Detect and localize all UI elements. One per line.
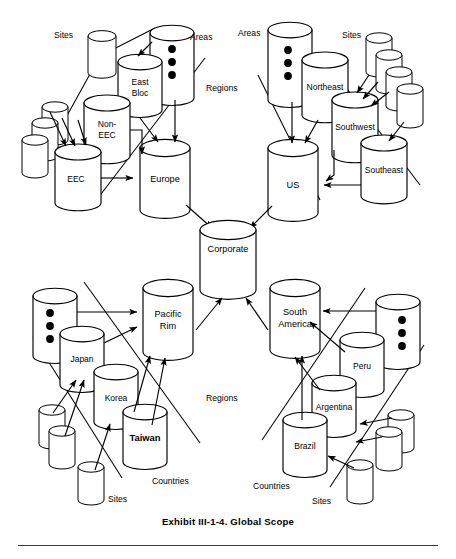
label-pacific-rim-line1: Pacific (154, 309, 181, 319)
label-corporate: Corporate (208, 244, 249, 254)
ellipsis-dot (168, 45, 176, 53)
label-southwest: Southwest (335, 122, 375, 132)
category-label-tr-sites: Sites (342, 30, 361, 40)
global-scope-diagram: Corporate Europe US Pacific Rim South Am… (0, 0, 456, 559)
category-label-br-regions: Regions (206, 393, 238, 403)
bottom-divider (18, 545, 438, 546)
figure-canvas: Corporate Europe US Pacific Rim South Am… (0, 0, 456, 559)
node-corporate (200, 220, 256, 299)
label-korea: Korea (105, 393, 128, 403)
ellipsis-dot (46, 309, 54, 317)
site-cylinder-br-2 (376, 427, 402, 471)
figure-caption: Exhibit III-1-4. Global Scope (0, 516, 456, 527)
label-northeast: Northeast (307, 82, 344, 92)
arrow-site-to-argentina-1 (360, 418, 392, 424)
label-taiwan: Taiwan (129, 432, 160, 443)
arrow-site-to-korea (95, 424, 110, 470)
site-cylinder-tl-4 (22, 135, 48, 178)
category-label-bl-countries: Countries (152, 476, 189, 486)
category-label-tr-areas: Areas (238, 28, 260, 38)
label-pacific-rim-line2: Rim (160, 321, 177, 331)
category-label-tl-regions: Regions (206, 83, 238, 93)
ellipsis-dot (398, 329, 406, 337)
arrow-pacific-rim-to-corporate (196, 298, 222, 330)
ellipsis-dot (398, 316, 406, 324)
ellipsis-dot (46, 322, 54, 330)
label-europe: Europe (150, 174, 180, 184)
ellipsis-dot (284, 59, 292, 67)
ellipsis-dot (398, 342, 406, 350)
site-cylinder-tl-1 (88, 31, 116, 79)
label-eec: EEC (67, 174, 84, 184)
label-east-bloc-line1: East (131, 77, 149, 87)
category-label-bl-sites: Sites (108, 494, 127, 504)
arrow-northeast-to-us (305, 120, 318, 143)
label-south-america-line2: America (278, 319, 313, 329)
arrow-east-bloc-to-europe (140, 118, 158, 142)
ellipsis-dot (46, 335, 54, 343)
label-us: US (287, 180, 300, 190)
site-cylinder-bl-3 (78, 462, 104, 505)
ellipsis-dot (284, 46, 292, 54)
label-south-america-line1: South (283, 307, 307, 317)
site-cylinder-bl-2 (49, 426, 75, 469)
category-label-tl-sites: Sites (54, 30, 73, 40)
ellipsis-dot (168, 71, 176, 79)
arrow-south-america-to-corporate (246, 298, 268, 330)
ellipsis-dot (168, 58, 176, 66)
category-label-tl-areas: Areas (190, 32, 212, 42)
arrow-japan-to-pacific-rim (104, 327, 137, 343)
label-peru: Peru (353, 361, 371, 371)
label-japan: Japan (70, 354, 93, 364)
label-non-eec-line1: Non- (98, 119, 117, 129)
ellipsis-dot (284, 72, 292, 80)
label-argentina: Argentina (316, 402, 353, 412)
label-brazil: Brazil (294, 441, 315, 451)
arrow-us-to-corporate (250, 206, 272, 228)
label-east-bloc-line2: Bloc (132, 88, 149, 98)
site-cylinder-tr-4 (397, 84, 423, 128)
category-label-br-countries: Countries (253, 481, 290, 491)
category-label-br-sites: Sites (312, 496, 331, 506)
label-non-eec-line2: EEC (98, 130, 115, 140)
node-pacific-rim (143, 279, 193, 360)
label-southeast: Southeast (365, 165, 404, 175)
